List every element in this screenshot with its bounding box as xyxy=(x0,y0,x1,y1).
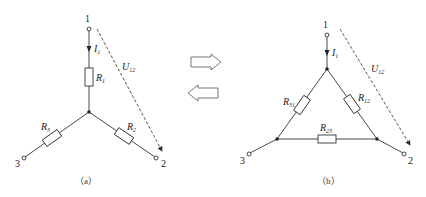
resistor-r1-label: R1 xyxy=(95,72,105,84)
terminal-3 xyxy=(247,152,251,156)
resistor-r23-label: R23 xyxy=(319,122,332,134)
resistor-r3 xyxy=(42,130,61,147)
resistor-r2-label: R2 xyxy=(126,121,136,133)
left-arrow-icon xyxy=(188,85,218,101)
star-circuit: 1 I1 R1 R3 3 R2 2 U12 （a） xyxy=(15,13,166,186)
caption-a: （a） xyxy=(75,176,97,186)
resistor-r31 xyxy=(294,95,311,114)
voltage-arrow xyxy=(97,29,162,151)
node-3-label: 3 xyxy=(15,158,20,169)
right-arrow-icon xyxy=(191,54,221,70)
resistor-r12-label: R12 xyxy=(357,92,370,104)
terminal-2 xyxy=(402,152,406,156)
terminal-2 xyxy=(154,156,158,160)
resistor-r31-label: R31 xyxy=(282,96,295,108)
current-arrow-icon xyxy=(87,46,92,52)
voltage-label: U12 xyxy=(122,61,135,73)
terminal-3 xyxy=(22,156,26,160)
current-arrow-icon xyxy=(325,50,330,56)
voltage-label: U12 xyxy=(371,63,384,75)
node-3-label: 3 xyxy=(240,155,245,166)
node-2-label: 2 xyxy=(408,155,413,166)
resistor-r23 xyxy=(318,135,336,143)
terminal-1 xyxy=(325,33,329,37)
resistor-r3-label: R3 xyxy=(40,121,50,133)
caption-b: （b） xyxy=(317,176,340,186)
terminal-1 xyxy=(87,27,91,31)
resistor-r1 xyxy=(85,68,93,86)
star-delta-diagram: 1 I1 R1 R3 3 R2 2 U12 （a） 1 I1 xyxy=(0,0,426,197)
delta-circuit: 1 I1 R31 R12 R23 3 2 U12 （b） xyxy=(240,19,413,186)
node-1-label: 1 xyxy=(85,13,90,24)
node-2-label: 2 xyxy=(161,158,166,169)
current-label: I1 xyxy=(331,47,338,59)
voltage-arrow xyxy=(340,29,410,145)
current-label: I1 xyxy=(93,43,100,55)
node-1-label: 1 xyxy=(323,19,328,30)
